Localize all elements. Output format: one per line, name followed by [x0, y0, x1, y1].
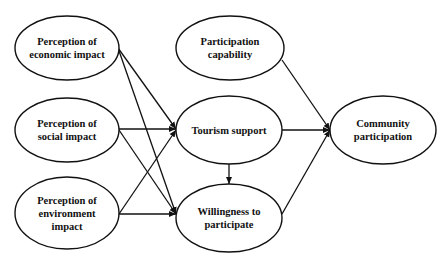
node-label-tourism-support: Tourism support — [176, 96, 282, 164]
node-label-environment-impact: Perception of environment impact — [15, 177, 119, 249]
arrow-economic-to-willingness — [118, 48, 176, 214]
arrow-economic-to-tourism — [118, 48, 176, 129]
arrow-capability-to-community — [282, 60, 330, 130]
node-label-willingness-to-participate: Willingness to participate — [176, 184, 282, 252]
node-label-social-impact: Perception of social impact — [15, 98, 119, 162]
arrow-willingness-to-community — [282, 130, 330, 214]
node-label-participation-capability: Participation capability — [176, 16, 284, 80]
node-label-economic-impact: Perception of economic impact — [15, 16, 119, 80]
node-label-community-participation: Community participation — [330, 96, 436, 164]
